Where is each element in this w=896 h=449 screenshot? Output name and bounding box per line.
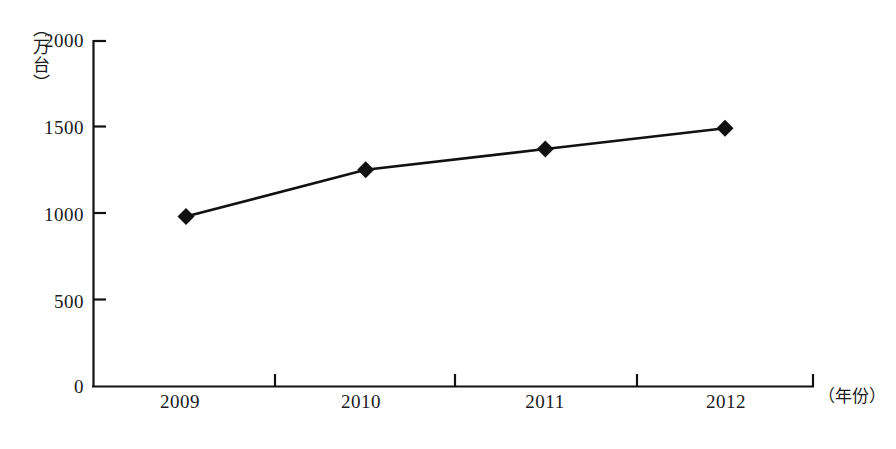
chart-background [0,0,896,449]
y-tick-label-1000: 1000 [12,205,84,224]
y-tick-label-2000: 2000 [12,31,84,50]
y-tick-label-0: 0 [12,377,84,396]
y-tick-label-500: 500 [12,292,84,311]
x-tick-label-2012: 2012 [681,392,771,411]
y-tick-label-1500: 1500 [12,118,84,137]
line-chart: （万台） 2000 1500 1000 500 0 2009 2010 2011… [0,0,896,449]
chart-canvas [0,0,896,449]
x-axis-unit-label: （年份） [818,388,886,405]
x-tick-label-2009: 2009 [135,392,225,411]
x-tick-label-2011: 2011 [500,392,590,411]
x-tick-label-2010: 2010 [316,392,406,411]
